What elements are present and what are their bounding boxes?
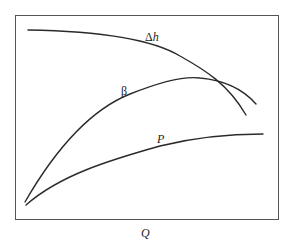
pump-characteristic-chart: Δh β P Q	[0, 0, 289, 247]
label-delta-h: Δh	[145, 30, 159, 44]
label-power: P	[156, 132, 165, 146]
label-beta: β	[121, 84, 127, 98]
curve-beta	[25, 78, 256, 202]
curve-power	[26, 134, 263, 205]
x-axis-label: Q	[141, 226, 150, 240]
plot-frame	[16, 16, 279, 220]
curve-delta-h	[28, 30, 246, 115]
